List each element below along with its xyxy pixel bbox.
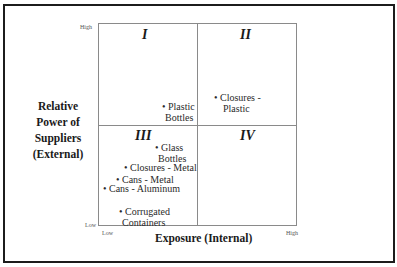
quadrant-label-iii: III: [135, 128, 151, 144]
x-tick-high: High: [286, 230, 298, 236]
y-label-line: Power of: [22, 114, 94, 130]
quadrant-label-iv: IV: [240, 128, 255, 144]
item-plastic-bottles: • Plastic Bottles: [162, 101, 195, 123]
item-line: Bottles: [162, 112, 195, 123]
y-tick-high: High: [80, 24, 92, 30]
y-tick-low: Low: [85, 222, 96, 228]
item-glass-bottles: • Glass Bottles: [155, 142, 186, 164]
x-tick-low: Low: [102, 230, 113, 236]
item-cans-aluminum: • Cans - Aluminum: [103, 183, 180, 194]
x-axis-label: Exposure (Internal): [155, 232, 252, 244]
y-label-line: (External): [22, 146, 94, 162]
y-label-line: Relative: [22, 98, 94, 114]
quadrant-label-ii: II: [240, 27, 251, 43]
y-label-line: Suppliers: [22, 130, 94, 146]
item-line: Containers: [119, 217, 170, 228]
item-line: • Corrugated: [119, 206, 170, 217]
quadrant-label-i: I: [142, 27, 147, 43]
item-closures-metal: • Closures - Metal: [124, 162, 197, 173]
item-line: • Plastic: [162, 101, 195, 112]
horizontal-divider: [98, 125, 297, 126]
item-line: Plastic: [214, 103, 261, 114]
item-line: • Glass: [155, 142, 186, 153]
item-corrugated-containers: • Corrugated Containers: [119, 206, 170, 228]
y-axis-label: Relative Power of Suppliers (External): [22, 98, 94, 162]
item-line: • Closures -: [214, 92, 261, 103]
item-closures-plastic: • Closures - Plastic: [214, 92, 261, 114]
